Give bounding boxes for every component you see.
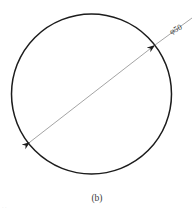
figure-container: φ50 (b) · · (0, 0, 194, 213)
corner-artifact-mark: · · (2, 205, 16, 210)
figure-caption: (b) (0, 192, 194, 204)
diameter-label: φ50 (168, 23, 183, 37)
diameter-dimension-line (30, 45, 155, 142)
diameter-label-group: φ50 (168, 23, 183, 37)
figure-drawing-canvas: φ50 (0, 0, 194, 213)
